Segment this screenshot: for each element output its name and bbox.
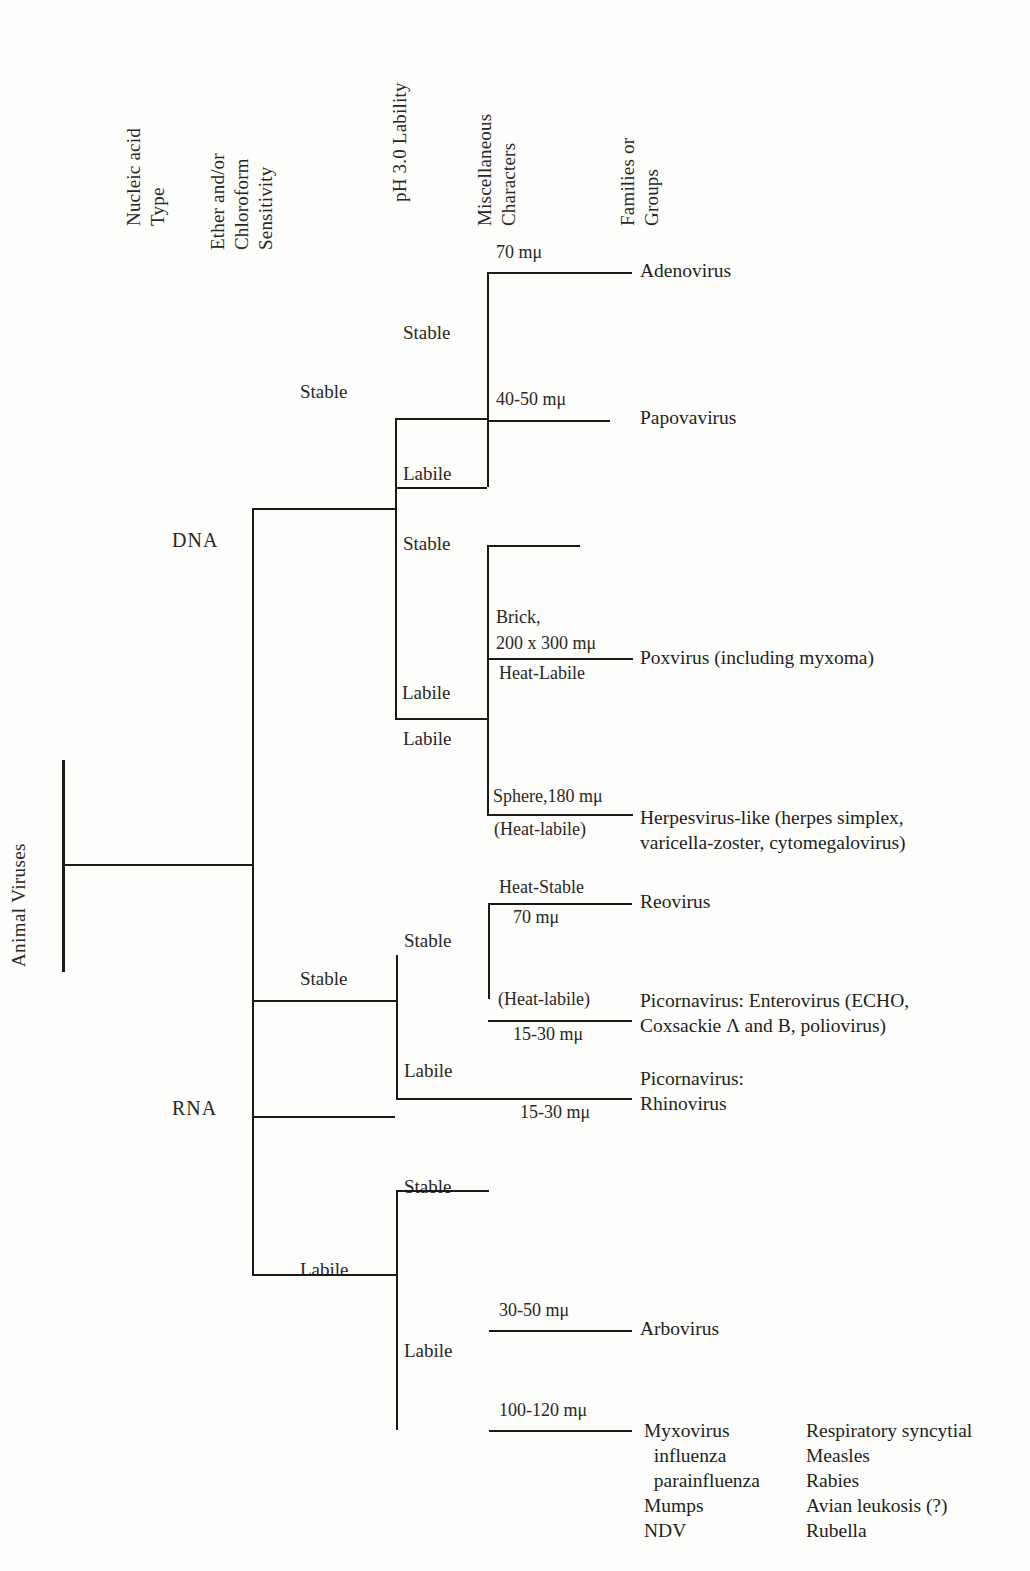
- misc-poxvirus-heat: Heat-Labile: [499, 662, 585, 685]
- family-myxovirus-column-2: Respiratory syncytial Measles Rabies Avi…: [806, 1418, 972, 1543]
- root-stem-line: [62, 864, 253, 866]
- reovirus-leaf-line: [488, 903, 632, 905]
- branch-label-dna-stable-ph-stable: Stable: [403, 322, 451, 344]
- nucleic-acid-label-rna: RNA: [172, 1097, 217, 1120]
- column-header-miscellaneous-characters: Miscellaneous Characters: [473, 114, 521, 226]
- dna-ether-split-line: [395, 418, 397, 718]
- column-header-nucleic-acid-type: Nucleic acid Type: [122, 128, 170, 226]
- misc-myxovirus-size: 100-120 mμ: [499, 1399, 587, 1422]
- family-poxvirus: Poxvirus (including myxoma): [640, 645, 874, 670]
- reovirus-misc-split-line: [488, 903, 490, 999]
- papovavirus-leaf-line: [487, 420, 610, 422]
- family-herpesvirus: Herpesvirus-like (herpes simplex, varice…: [640, 805, 906, 855]
- dna-stable-ph-split-line: [487, 272, 489, 487]
- rhinovirus-leaf-line: [396, 1098, 632, 1100]
- misc-adenovirus-size: 70 mμ: [496, 241, 542, 264]
- dna-labile-ph-stable-stub-line: [487, 545, 580, 547]
- family-rhinovirus: Picornavirus: Rhinovirus: [640, 1066, 744, 1116]
- family-enterovirus: Picornavirus: Enterovirus (ECHO, Coxsack…: [640, 988, 909, 1038]
- adenovirus-leaf-line: [487, 272, 632, 274]
- rna-ether-split-line: [252, 1000, 254, 1274]
- dna-stable-edge-line: [395, 418, 488, 420]
- arbovirus-leaf-line: [489, 1330, 632, 1332]
- branch-label-rna-labile: Labile: [300, 1259, 349, 1281]
- rna-labile-ph-split-line: [396, 1190, 398, 1430]
- rna-stable-ph-split-line: [396, 955, 398, 1098]
- branch-label-dna-labile-ph-stable: Stable: [403, 533, 451, 555]
- branch-label-dna-stable: Stable: [300, 381, 348, 403]
- root-label: Animal Viruses: [8, 843, 30, 967]
- column-header-ether-chloroform-sensitivity: Ether and/or Chloroform Sensitivity: [206, 153, 278, 250]
- branch-label-rna-labile-ph-stable: Stable: [404, 1176, 452, 1198]
- myxovirus-leaf-line: [489, 1430, 632, 1432]
- misc-reovirus-size: 70 mμ: [513, 906, 559, 929]
- misc-enterovirus-heat: (Heat-labile): [498, 988, 590, 1011]
- branch-label-rna-stable: Stable: [300, 968, 348, 990]
- rna-stable-edge-line: [252, 1000, 397, 1002]
- family-arbovirus: Arbovirus: [640, 1316, 719, 1341]
- root-bar: [62, 760, 65, 972]
- misc-enterovirus-size: 15-30 mμ: [513, 1023, 583, 1046]
- virus-classification-figure: Nucleic acid Type Ether and/or Chlorofor…: [0, 0, 1030, 1571]
- branch-label-dna-labile-ph-labile: Labile: [403, 728, 452, 750]
- misc-papovavirus-size: 40-50 mμ: [496, 388, 566, 411]
- dna-labile-edge-line: [395, 718, 488, 720]
- herpesvirus-leaf-line: [487, 814, 633, 816]
- family-adenovirus: Adenovirus: [640, 258, 731, 283]
- branch-label-dna-labile: Labile: [402, 682, 451, 704]
- enterovirus-leaf-line: [488, 1020, 632, 1022]
- rna-labile-ph-stable-stub-line: [396, 1190, 489, 1192]
- misc-arbovirus-size: 30-50 mμ: [499, 1299, 569, 1322]
- dna-stable-ph-labile-stub-line: [395, 487, 487, 489]
- branch-label-rna-labile-ph-labile: Labile: [404, 1340, 453, 1362]
- misc-poxvirus-size: 200 x 300 mμ: [496, 632, 596, 655]
- misc-poxvirus-shape: Brick,: [496, 606, 541, 629]
- misc-rhinovirus-size: 15-30 mμ: [520, 1101, 590, 1124]
- rna-labile-edge-line: [252, 1274, 398, 1276]
- family-papovavirus: Papovavirus: [640, 405, 736, 430]
- branch-label-dna-stable-ph-labile: Labile: [403, 463, 452, 485]
- dna-labile-ph-split-line: [487, 545, 489, 815]
- family-myxovirus-column-1: Myxovirus influenza parainfluenza Mumps …: [644, 1418, 760, 1543]
- branch-label-rna-stable-ph-stable: Stable: [404, 930, 452, 952]
- column-header-ph-3-lability: pH 3.0 Lability: [388, 82, 412, 202]
- family-reovirus: Reovirus: [640, 889, 710, 914]
- misc-herpesvirus-size: Sphere,180 mμ: [493, 785, 603, 808]
- dna-edge-line: [252, 508, 395, 510]
- column-header-families-or-groups: Families or Groups: [616, 138, 664, 226]
- poxvirus-leaf-line: [487, 658, 633, 660]
- nucleic-acid-label-dna: DNA: [172, 529, 218, 552]
- branch-label-rna-stable-ph-labile: Labile: [404, 1060, 453, 1082]
- misc-herpesvirus-heat: (Heat-labile): [494, 818, 586, 841]
- rna-edge-line: [252, 1116, 395, 1118]
- misc-reovirus-heat: Heat-Stable: [499, 876, 584, 899]
